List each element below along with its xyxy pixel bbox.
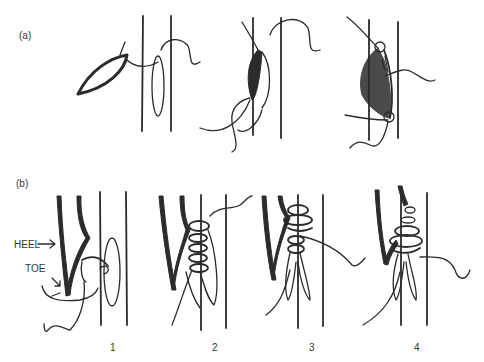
panel-a-step-2 <box>200 18 320 152</box>
panel-b-step-1 <box>38 192 127 331</box>
panel-b-step-3 <box>262 195 365 328</box>
panel-b-step-4 <box>363 186 470 325</box>
panel-b-step-2 <box>159 195 252 330</box>
panel-a-step-3 <box>345 17 435 148</box>
panel-a-step-1 <box>78 16 200 131</box>
suture-illustration <box>0 0 484 362</box>
